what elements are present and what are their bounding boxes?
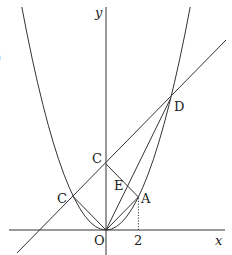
segment-oa — [106, 197, 138, 230]
edge-text-fragment: ) — [0, 50, 1, 65]
line-bd — [17, 40, 226, 253]
point-label-a: A — [140, 191, 151, 206]
point-label-b: C — [92, 151, 102, 166]
segment-oc — [74, 197, 106, 230]
x-axis-label: x — [215, 233, 223, 248]
point-label-e: E — [114, 178, 124, 193]
y-axis-label: y — [94, 5, 103, 20]
coordinate-diagram: y x O 2 C E A C D ) — [0, 0, 232, 255]
x-tick-label-2: 2 — [134, 233, 142, 248]
point-label-d: D — [174, 99, 184, 114]
origin-label: O — [94, 233, 105, 248]
point-label-c: C — [57, 191, 67, 206]
